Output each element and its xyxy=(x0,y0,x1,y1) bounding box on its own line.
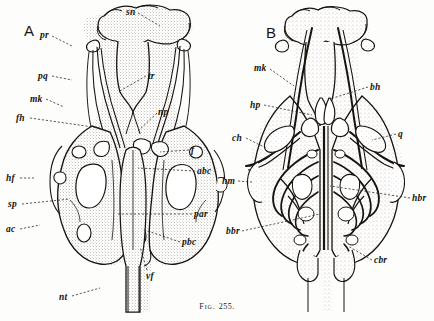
label-a-par: par xyxy=(194,210,208,220)
panel-letter-a: A xyxy=(24,22,34,39)
fenestra-b-right-2 xyxy=(338,207,354,221)
fenestra-b-right xyxy=(340,174,360,199)
caption-prefix: Fig. xyxy=(199,302,215,311)
np-process xyxy=(94,141,110,156)
leader-a-pq xyxy=(52,76,72,80)
label-a-vf: vf xyxy=(146,272,154,282)
label-a-abc: abc xyxy=(197,167,211,177)
label-a-f: f xyxy=(191,146,194,156)
label-a-pr: pr xyxy=(40,31,49,41)
label-a-mk: mk xyxy=(30,95,43,105)
fenestra-right-large xyxy=(166,165,196,210)
leader-a-mk xyxy=(46,99,64,107)
label-b-mk: mk xyxy=(254,64,267,74)
label-a-hf: hf xyxy=(6,174,15,184)
label-a-tr: tr xyxy=(148,72,155,82)
leader-b-mk xyxy=(270,69,294,86)
leader-a-pr xyxy=(52,36,72,46)
fenestra-b-left xyxy=(292,174,312,199)
label-a-np: np xyxy=(158,108,168,118)
caption-number: 255. xyxy=(219,302,235,311)
panel-b-artwork xyxy=(240,0,420,321)
label-b-hbr: hbr xyxy=(412,194,426,204)
fenestra-left-small xyxy=(72,146,86,158)
label-a-pq: pq xyxy=(38,72,48,82)
leader-a-ac xyxy=(20,225,40,229)
label-a-ac: ac xyxy=(6,225,15,235)
snout-outline xyxy=(98,5,190,44)
label-b-hm: hm xyxy=(222,177,235,187)
panel-letter-b: B xyxy=(266,24,276,41)
anatomical-illustration xyxy=(0,0,434,321)
label-b-q: q xyxy=(398,130,403,140)
figure-plate: A B snprpqmkfhtrnpfabchfspparacpbcvfnt m… xyxy=(0,0,434,321)
hf-notch xyxy=(54,172,66,184)
leader-a-nt xyxy=(72,288,100,296)
label-b-ch: ch xyxy=(232,134,242,144)
figure-caption: Fig. 255. xyxy=(0,302,434,311)
label-a-pbc: pbc xyxy=(182,238,196,248)
label-a-sn: sn xyxy=(126,8,135,18)
label-b-hp: hp xyxy=(250,101,260,111)
label-a-sp: sp xyxy=(8,200,17,210)
label-b-cbr: cbr xyxy=(374,256,387,266)
label-a-fh: fh xyxy=(16,114,25,124)
label-b-bbr: bbr xyxy=(226,227,240,237)
fenestra-b-left-2 xyxy=(298,207,314,221)
panel-a-artwork xyxy=(50,0,230,321)
label-b-bh: bh xyxy=(370,83,380,93)
snout-outline-b xyxy=(285,7,367,46)
fenestra-left-post xyxy=(77,224,91,242)
